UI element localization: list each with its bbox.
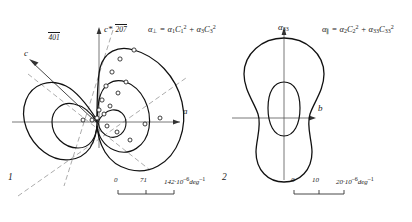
p1-lhs-sub: ⊥ — [152, 28, 157, 34]
arrowhead-a-icon — [173, 120, 180, 125]
panel-1-miller-207: 207 — [115, 25, 127, 34]
p2-lhs-sub: ∥ — [326, 28, 329, 34]
panel-1-outer-curve — [24, 48, 184, 170]
panel-1-axis-label-cstar: c* — [104, 24, 113, 34]
panel-2-axis-alpha33 — [282, 27, 287, 180]
p2-unit: deg — [358, 178, 368, 186]
panel-2-axis-label-alpha33: α33 — [278, 22, 289, 32]
p1-t1-pow: 2 — [184, 24, 187, 30]
p1-tick-2: 142 — [164, 178, 175, 186]
p2-tick-0: 0 — [291, 176, 295, 184]
alpha33-sub: 33 — [283, 26, 289, 32]
panel-2-scale-label-10: 10 — [312, 176, 319, 184]
panel-2-number: 2 — [222, 172, 227, 182]
panel-1-scale-label-142: 142·10–6deg–1 — [164, 176, 205, 186]
panel-1-number-text: 1 — [8, 172, 13, 182]
p2-mult: ·10 — [343, 178, 352, 186]
panel-2-scale-label-20: 20·10–6deg–1 — [336, 176, 374, 186]
panel-2-axis-label-b: b — [318, 103, 323, 113]
arrowhead-c-icon — [29, 59, 39, 66]
p1-mult: ·10 — [175, 178, 184, 186]
panel-1-number: 1 — [8, 172, 13, 182]
miller-207-text: 207 — [115, 24, 127, 34]
panel-1-direction-label-c: c — [24, 48, 28, 58]
figure-container: α⊥ = α1C12 + α3C32 c* a c 401 207 1 0 71… — [0, 0, 412, 222]
panel-1-scale-bar — [116, 188, 188, 202]
p1-tick-1: 71 — [140, 176, 147, 184]
p2-eq: = — [332, 24, 338, 34]
panel-1-inner-curve — [52, 81, 150, 153]
p2-t1-pow: 2 — [356, 24, 359, 30]
p2-tick-1: 10 — [312, 176, 319, 184]
panel-2-scale-label-0: 0 — [291, 176, 295, 184]
panel-1-formula: α⊥ = α1C12 + α3C32 — [148, 24, 216, 34]
cstar-text: c* — [104, 24, 113, 34]
miller-401-text: 401 — [48, 32, 60, 42]
panel-1-scale-label-71: 71 — [140, 176, 147, 184]
panel-1-miller-401: 401 — [48, 33, 60, 42]
panel-2-number-text: 2 — [222, 172, 227, 182]
panel-1-data-markers — [81, 48, 162, 142]
p2-unit-exp: –1 — [368, 176, 374, 182]
panel-1-scale-label-0: 0 — [114, 176, 118, 184]
p2-tick-2: 20 — [336, 178, 343, 186]
p1-unit: deg — [189, 178, 199, 186]
panel-1-axis-label-a: a — [183, 106, 188, 116]
p1-tick-0: 0 — [114, 176, 118, 184]
panel-2-axis-b — [232, 116, 316, 121]
p1-unit-exp: –1 — [199, 176, 205, 182]
b-text: b — [318, 103, 323, 113]
p1-eq: = — [160, 24, 166, 34]
p1-plus: + — [189, 24, 195, 34]
c-dir-text: c — [24, 48, 28, 58]
arrowhead-cstar-icon — [97, 27, 102, 34]
p2-plus: + — [361, 24, 367, 34]
a-text: a — [183, 106, 188, 116]
panel-1-direction-arrow-c — [29, 59, 96, 122]
panel-2-formula: α∥ = α2C22 + α33C332 — [322, 24, 394, 34]
p2-t2-pow: 2 — [391, 24, 394, 30]
panel-2-scale-bar — [292, 188, 358, 202]
